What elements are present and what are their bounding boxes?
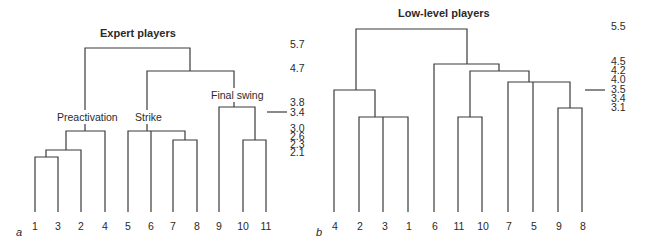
leaf-label: 5 — [125, 220, 131, 232]
leaf-label: 8 — [194, 220, 200, 232]
leaf-label: 6 — [148, 220, 154, 232]
leaf-label: 3 — [55, 220, 61, 232]
leaf-label: 11 — [454, 220, 465, 232]
cluster-label-preactivation: Preactivation — [57, 111, 118, 123]
leaf-label: 2 — [78, 220, 84, 232]
leaf-label: 7 — [170, 220, 176, 232]
panel-b-leaf-labels: 4 2 3 1 6 11 10 7 5 9 8 — [332, 220, 586, 232]
leaf-label: 8 — [580, 220, 586, 232]
leaf-label: 4 — [102, 220, 108, 232]
leaf-label: 6 — [432, 220, 438, 232]
leaf-label: 9 — [556, 220, 562, 232]
panel-a-scale: 5.7 4.7 3.8 3.4 3.0 2.6 2.3 2.1 — [290, 38, 305, 158]
scale-value: 2.1 — [290, 146, 305, 158]
dendrogram-figure: Expert players Preactivation Strike — [0, 0, 645, 250]
panel-a-title: Expert players — [100, 27, 176, 39]
panel-b-title: Low-level players — [398, 7, 490, 19]
scale-value: 4.7 — [290, 62, 305, 74]
leaf-label: 9 — [216, 220, 222, 232]
leaf-label: 3 — [382, 220, 388, 232]
leaf-label: 5 — [531, 220, 537, 232]
scale-value: 5.7 — [290, 38, 305, 50]
panel-a: Expert players Preactivation Strike — [16, 27, 305, 238]
scale-value: 3.4 — [290, 106, 305, 118]
panel-b: Low-level players 4 2 3 1 6 — [316, 7, 626, 238]
scale-value: 5.5 — [611, 20, 626, 32]
leaf-label: 10 — [237, 220, 249, 232]
leaf-label: 1 — [406, 220, 412, 232]
panel-a-leaf-labels: 1 3 2 4 5 6 7 8 9 10 11 — [32, 220, 272, 232]
panel-a-label: a — [16, 226, 22, 238]
panel-b-scale: 5.5 4.5 4.2 4.0 3.5 3.4 3.1 — [611, 20, 626, 113]
leaf-label: 7 — [506, 220, 512, 232]
leaf-label: 2 — [357, 220, 363, 232]
cluster-label-final-swing: Final swing — [211, 89, 264, 101]
panel-b-tree — [334, 29, 582, 212]
leaf-label: 10 — [477, 220, 489, 232]
leaf-label: 1 — [32, 220, 38, 232]
cluster-label-strike: Strike — [135, 111, 162, 123]
panel-a-tree — [35, 48, 266, 212]
leaf-label: 4 — [332, 220, 338, 232]
panel-b-label: b — [316, 226, 322, 238]
leaf-label: 11 — [261, 220, 272, 232]
scale-value: 3.1 — [611, 101, 626, 113]
